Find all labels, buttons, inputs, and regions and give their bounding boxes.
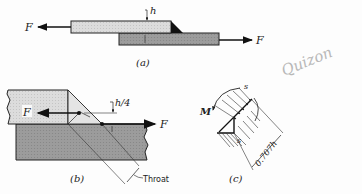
throat-dimension [127, 168, 139, 182]
part-c-throat-stress: M s s 0.707h (c) [199, 82, 283, 184]
thickness-label: h [150, 5, 156, 16]
part-b-weld-section: Throat F F h/4 (b) [7, 90, 169, 184]
force-label-left-b: F [22, 106, 31, 119]
throat-label: Throat [142, 175, 169, 184]
part-a-lap-joint: F F h (a) [24, 5, 264, 68]
caption-c: (c) [229, 173, 243, 184]
dimension-extension-2 [234, 133, 253, 170]
offset-label: h/4 [115, 97, 130, 108]
upper-plate-section [7, 90, 68, 124]
force-point-right [100, 122, 104, 126]
lower-plate-section [16, 124, 148, 160]
offset-leader [110, 102, 113, 112]
force-label-right: F [255, 34, 264, 47]
handwritten-annotation: Quizon [279, 43, 335, 80]
weld-diagram-figure: F F h (a) Throat F F [0, 0, 362, 194]
force-point-left [77, 111, 81, 115]
upper-plate [71, 21, 171, 33]
caption-a: (a) [136, 57, 150, 68]
force-label-left: F [24, 21, 33, 34]
throat-leader [134, 175, 143, 178]
moment-label: M [199, 106, 212, 117]
fillet-weld [171, 21, 183, 33]
dimension-label: 0.707h [253, 139, 279, 169]
caption-b: (b) [70, 173, 84, 184]
lower-plate [119, 33, 219, 45]
stress-label-top: s [244, 82, 248, 91]
force-label-right-b: F [159, 118, 168, 131]
thickness-leader [145, 10, 147, 20]
moment-arrow [254, 98, 258, 121]
